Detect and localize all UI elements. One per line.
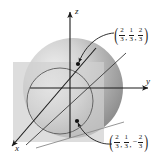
- close-paren-lower: ): [144, 134, 148, 149]
- lower-point-dot: [75, 119, 79, 123]
- upper-point-dot: [76, 62, 80, 66]
- math-figure-sphere-plane: z y x ( 2 3 , 1 3 , 2 3 ) ( 2 3 , 1 3: [0, 0, 164, 162]
- lower-z-fraction: 2 3: [138, 134, 144, 150]
- intersection-circle: [27, 68, 93, 134]
- z-axis-label: z: [74, 6, 79, 16]
- upper-point-coordinate-label: ( 2 3 , 1 3 , 2 3 ): [113, 27, 150, 43]
- open-paren-upper: (: [114, 27, 118, 42]
- open-paren-lower: (: [109, 134, 113, 149]
- y-axis-label: y: [145, 76, 150, 86]
- lower-point-coordinate-label: ( 2 3 , 1 3 , − 2 3 ): [108, 134, 150, 150]
- close-paren-upper: ): [144, 27, 148, 42]
- upper-z-fraction: 2 3: [138, 27, 144, 43]
- x-axis-label: x: [14, 143, 19, 153]
